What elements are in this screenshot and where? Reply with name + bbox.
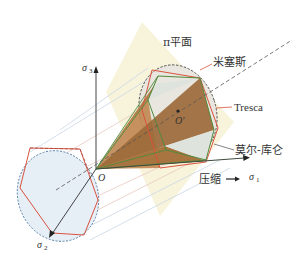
von-mises-label: 米塞斯 [213, 55, 246, 69]
compression-label: 压缩 [199, 173, 221, 186]
compression-arrow-icon [226, 177, 240, 182]
svg-text:1: 1 [256, 176, 260, 184]
svg-text:σ: σ [82, 62, 88, 73]
mohr-leader-line [214, 144, 234, 150]
svg-text:σ: σ [249, 171, 255, 182]
svg-text:2: 2 [44, 244, 48, 252]
svg-text:3: 3 [89, 67, 93, 75]
center-point [176, 109, 179, 112]
pi-plane-label: π平面 [163, 36, 192, 49]
sigma3-arrowhead [94, 66, 99, 73]
svg-text:σ: σ [37, 239, 43, 250]
left-mises-circle [5, 139, 112, 253]
mohr-coulomb-label: 莫尔-库仑 [235, 143, 283, 157]
sigma2-label: σ 2 [37, 239, 48, 252]
sigma3-label: σ 3 [82, 62, 93, 75]
tresca-label: Tresca [234, 101, 263, 113]
origin-label: O [98, 172, 105, 183]
origin-prime-label: O′ [175, 115, 185, 126]
yield-surfaces-diagram: π平面 米塞斯 Tresca 莫尔-库仑 压缩 O O′ σ 3 σ 1 σ 2 [0, 0, 304, 264]
sigma1-label: σ 1 [249, 171, 260, 184]
